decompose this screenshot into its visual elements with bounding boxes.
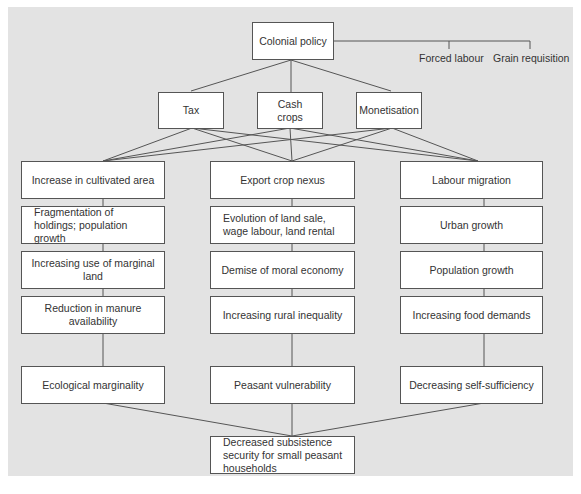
col1-item2: Fragmentation of holdings; population gr… (21, 206, 165, 244)
col1-item3: Increasing use of marginal land (21, 251, 165, 289)
node-label: Increasing use of marginal land (28, 257, 158, 283)
col3-item1: Labour migration (400, 161, 543, 199)
final-node: Decreased subsistence security for small… (210, 436, 355, 474)
node-label: Evolution of land sale, wage labour, lan… (223, 212, 348, 238)
side-label-grain-requisition: Grain requisition (493, 52, 569, 64)
node-label: Ecological marginality (42, 379, 144, 392)
col2-item4: Increasing rural inequality (210, 296, 355, 334)
col2-outcome: Peasant vulnerability (210, 366, 355, 404)
col1-outcome: Ecological marginality (21, 366, 165, 404)
node-label: Increase in cultivated area (32, 174, 155, 187)
mechanism-tax: Tax (158, 92, 224, 129)
node-label: Demise of moral economy (222, 264, 344, 277)
node-label: Reduction in manure availability (28, 302, 158, 328)
mechanism-cash-crops: Cash crops (257, 92, 323, 129)
mechanism-label: Monetisation (359, 104, 419, 117)
root-node: Colonial policy (252, 22, 334, 60)
mechanism-label: Cash crops (264, 98, 316, 124)
col2-item1: Export crop nexus (210, 161, 355, 199)
root-label: Colonial policy (259, 35, 327, 48)
connector-lines (0, 0, 581, 494)
col3-item2: Urban growth (400, 206, 543, 244)
col2-item2: Evolution of land sale, wage labour, lan… (210, 206, 355, 244)
node-label: Decreasing self-sufficiency (409, 379, 534, 392)
node-label: Increasing food demands (413, 309, 531, 322)
col3-outcome: Decreasing self-sufficiency (400, 366, 543, 404)
node-label: Population growth (429, 264, 513, 277)
node-label: Fragmentation of holdings; population gr… (34, 206, 158, 245)
col1-item4: Reduction in manure availability (21, 296, 165, 334)
node-label: Urban growth (440, 219, 503, 232)
col3-item3: Population growth (400, 251, 543, 289)
mechanism-label: Tax (183, 104, 199, 117)
node-label: Export crop nexus (240, 174, 325, 187)
col2-item3: Demise of moral economy (210, 251, 355, 289)
node-label: Labour migration (432, 174, 511, 187)
col3-item4: Increasing food demands (400, 296, 543, 334)
side-label-forced-labour: Forced labour (419, 52, 484, 64)
col1-item1: Increase in cultivated area (21, 161, 165, 199)
final-label: Decreased subsistence security for small… (223, 436, 348, 475)
mechanism-monetisation: Monetisation (356, 92, 422, 129)
node-label: Increasing rural inequality (223, 309, 343, 322)
node-label: Peasant vulnerability (234, 379, 331, 392)
